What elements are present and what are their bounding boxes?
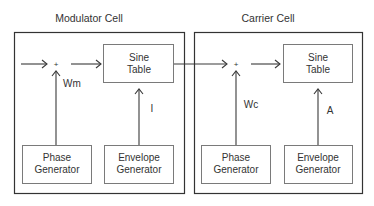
modulator-envelope-arrow [135, 89, 143, 145]
carrier-envelope-arrow [314, 89, 322, 145]
carrier-phase-generator: Phase Generator [202, 146, 271, 184]
carrier-phase-arrow [232, 71, 240, 145]
svg-text:Phase: Phase [43, 152, 72, 163]
svg-text:Generator: Generator [295, 164, 341, 175]
modulator-phase-arrow [52, 71, 60, 145]
svg-text:Sine: Sine [308, 52, 328, 63]
svg-text:Phase: Phase [222, 152, 251, 163]
modulator-phase-generator: Phase Generator [23, 146, 92, 184]
carrier-phase-label: Wc [244, 99, 258, 110]
carrier-envelope-label: A [327, 105, 334, 116]
modulator-cell-title: Modulator Cell [55, 12, 123, 24]
carrier-sine-table: Sine Table [284, 45, 353, 83]
carrier-adder: + [234, 60, 239, 69]
fm-synthesis-diagram: Modulator Cell + Sine Table Wm [0, 0, 374, 206]
modulator-adder-to-sine-arrow [71, 60, 101, 68]
svg-text:Envelope: Envelope [297, 152, 339, 163]
svg-text:Sine: Sine [129, 52, 149, 63]
modulator-sine-table: Sine Table [104, 45, 174, 83]
modulator-phase-label: Wm [63, 78, 81, 89]
modulator-input-arrow [21, 60, 47, 68]
modulator-to-carrier-arrow [174, 60, 227, 68]
svg-text:Generator: Generator [116, 164, 162, 175]
modulator-envelope-label: I [151, 103, 154, 114]
svg-text:Generator: Generator [34, 164, 80, 175]
svg-text:Envelope: Envelope [118, 152, 160, 163]
svg-text:Table: Table [306, 64, 330, 75]
carrier-cell-title: Carrier Cell [241, 12, 294, 24]
modulator-adder: + [54, 60, 59, 69]
modulator-envelope-generator: Envelope Generator [105, 146, 174, 184]
carrier-adder-to-sine-arrow [251, 60, 280, 68]
svg-text:Table: Table [127, 64, 151, 75]
carrier-envelope-generator: Envelope Generator [285, 146, 353, 184]
modulator-cell: Modulator Cell + Sine Table Wm [15, 12, 185, 194]
svg-text:Generator: Generator [213, 164, 259, 175]
carrier-cell: Carrier Cell + Sine Table Wc A [195, 12, 363, 194]
